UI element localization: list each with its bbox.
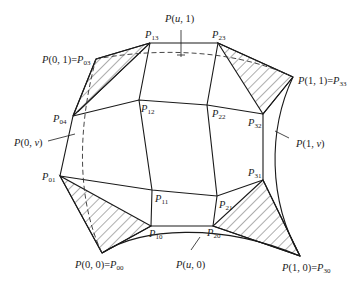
label-p-u-0: P(u, 0): [175, 259, 206, 271]
label-p10-corner: P(1, 0)=P30: [281, 262, 331, 275]
leader-p-1-v: [275, 131, 289, 138]
label-p00-corner: P(0, 0)=P00: [74, 259, 124, 272]
label-p-1-v: P(1, v): [295, 138, 325, 150]
hatch-corner-p30: [213, 180, 300, 256]
label-p31: P31: [247, 167, 262, 180]
net-col-1: [139, 43, 152, 226]
label-p23: P23: [211, 29, 226, 42]
label-p-u-1: P(u, 1): [164, 13, 195, 25]
label-p04: P04: [52, 113, 67, 126]
leader-p-u-0: [191, 237, 200, 250]
label-p22: P22: [211, 108, 226, 121]
label-p20: P20: [206, 227, 221, 240]
hatched-corners: [60, 43, 300, 256]
net-col-2: [207, 43, 218, 226]
label-p32: P32: [247, 117, 262, 130]
label-p01-corner: P(0, 1)=P03: [41, 54, 91, 67]
label-p01: P01: [41, 171, 56, 184]
leader-p-0-v: [48, 134, 75, 141]
label-p10: P10: [148, 228, 163, 241]
label-p11-corner: P(1, 1)=P33: [297, 75, 347, 88]
label-p-0-v: P(0, v): [13, 137, 43, 149]
net-row-2: [73, 100, 263, 116]
label-p13: P13: [144, 29, 159, 42]
hatch-corner-p33: [218, 43, 293, 114]
label-p11: P11: [154, 193, 169, 206]
bezier-surface-diagram: P(u, 1) P13 P23 P(0, 1)=P03 P(1, 1)=P33 …: [0, 0, 357, 285]
label-p21: P21: [218, 199, 233, 212]
label-p12: P12: [140, 103, 155, 116]
